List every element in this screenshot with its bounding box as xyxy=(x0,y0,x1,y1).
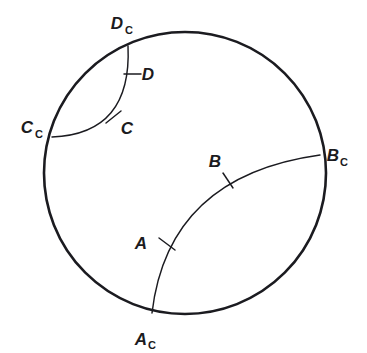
label-point-B-c: B C xyxy=(327,146,348,168)
label-point-A: A xyxy=(134,234,147,253)
label-point-C-c-base: C xyxy=(21,118,34,137)
arc-c-to-d xyxy=(52,46,128,137)
label-point-C-c-subscript: C xyxy=(35,128,43,140)
arc-a-to-b xyxy=(152,155,320,313)
bounding-circle xyxy=(44,32,326,314)
label-point-D-c-base: D xyxy=(111,14,123,33)
label-point-A-c: A C xyxy=(134,330,156,351)
diagram-canvas: A B C D A C B C C C D C xyxy=(0,0,367,353)
geometry-figure: A B C D A C B C C C D C xyxy=(0,0,367,353)
label-point-B-c-subscript: C xyxy=(340,156,348,168)
label-point-A-c-subscript: C xyxy=(148,339,156,351)
label-point-C: C xyxy=(121,119,134,138)
label-point-D-c-subscript: C xyxy=(125,24,133,36)
label-point-C-c: C C xyxy=(21,118,43,140)
label-point-B-c-base: B xyxy=(327,146,339,165)
label-point-B: B xyxy=(209,152,221,171)
label-point-A-c-base: A xyxy=(134,330,147,349)
label-point-D: D xyxy=(142,65,154,84)
label-point-D-c: D C xyxy=(111,14,133,36)
tick-mark-C xyxy=(106,111,121,123)
